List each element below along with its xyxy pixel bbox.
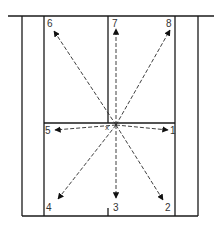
label-direction-7: 7 [112,18,118,29]
arrow-direction-1 [116,125,168,130]
label-direction-2: 2 [165,202,171,213]
label-direction-5: 5 [45,125,51,136]
arrow-direction-2 [116,125,163,200]
arrow-direction-8 [116,30,170,125]
label-direction-4: 4 [46,202,52,213]
label-direction-3: 3 [113,202,119,213]
center-marker: x [105,123,109,132]
arrow-direction-6 [54,31,116,125]
label-direction-1: 1 [170,125,176,136]
arrow-direction-4 [58,125,116,199]
label-direction-8: 8 [166,18,172,29]
label-direction-6: 6 [47,18,53,29]
court-diagram: 12345678 x [0,0,214,230]
direction-arrows [54,29,170,200]
court-lines [8,16,214,216]
